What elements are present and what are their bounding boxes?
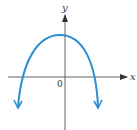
parabola-graph: y x 0 (0, 0, 137, 130)
x-axis-label: x (130, 71, 136, 82)
parabola-curve (18, 35, 98, 107)
origin-label: 0 (57, 79, 63, 89)
y-axis-label: y (61, 2, 68, 13)
